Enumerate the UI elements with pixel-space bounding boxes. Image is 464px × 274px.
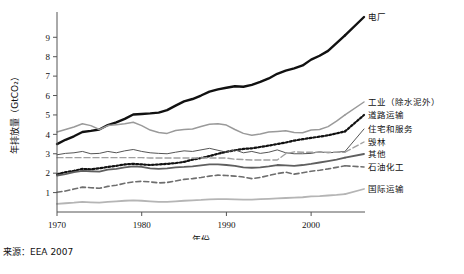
chart-canvas: 1234567891970198019902000年份年排放量（GtCO₂） 电…	[0, 0, 464, 240]
y-tick-label: 4	[46, 130, 51, 140]
legend-label-6: 石油化工	[368, 162, 404, 172]
y-tick-label: 3	[46, 149, 51, 159]
plot-area	[57, 35, 345, 204]
legend-label-3: 住宅和服务	[368, 124, 413, 134]
series-line-6	[57, 166, 345, 192]
axis-labels: 1234567891970198019902000年份年排放量（GtCO₂）	[9, 33, 321, 240]
legend-connector-6	[345, 166, 364, 167]
legend-label-7: 国际运输	[368, 184, 404, 194]
y-tick-label: 7	[46, 71, 51, 81]
legend-label-1: 工业（除水泥外）	[368, 97, 440, 107]
legend-connector-4	[345, 142, 364, 152]
x-tick-label: 1980	[133, 220, 152, 230]
legend-connector-2	[345, 115, 364, 131]
source-note: 来源：EEA 2007	[3, 245, 73, 258]
legend-label-2: 道路运输	[368, 110, 404, 120]
series-line-0	[57, 35, 345, 144]
legend-connector-5	[345, 154, 364, 158]
y-tick-label: 5	[46, 110, 51, 120]
chart-legend: 电厂工业（除水泥外）道路运输住宅和服务毁林其他石油化工国际运输	[345, 12, 440, 194]
legend-connector-7	[345, 189, 364, 194]
legend-label-5: 其他	[368, 149, 386, 159]
y-tick-label: 9	[46, 33, 51, 43]
legend-connector-3	[345, 129, 364, 151]
legend-label-4: 毁林	[368, 137, 386, 147]
y-axis-title: 年排放量（GtCO₂）	[9, 72, 20, 153]
legend-connector-1	[345, 102, 364, 115]
y-tick-label: 1	[46, 188, 51, 198]
legend-connector-0	[345, 17, 364, 35]
emissions-line-chart: 1234567891970198019902000年份年排放量（GtCO₂） 电…	[0, 0, 464, 274]
series-line-7	[57, 194, 345, 204]
axes	[53, 12, 365, 216]
x-tick-label: 1990	[217, 220, 236, 230]
y-tick-label: 2	[46, 168, 51, 178]
y-tick-label: 8	[46, 52, 51, 62]
legend-label-0: 电厂	[368, 12, 386, 22]
series-line-1	[57, 115, 345, 135]
x-tick-label: 2000	[302, 220, 321, 230]
x-tick-label: 1970	[48, 220, 67, 230]
y-tick-label: 6	[46, 91, 51, 101]
axis-spine	[57, 12, 365, 212]
x-axis-title: 年份	[192, 234, 210, 240]
